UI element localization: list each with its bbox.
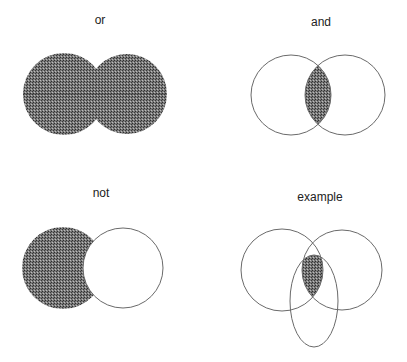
venn-diagram-canvas: or and not example bbox=[0, 0, 407, 362]
and-label: and bbox=[311, 15, 331, 29]
and-diagram: and bbox=[251, 15, 385, 135]
not-label: not bbox=[93, 186, 110, 200]
not-diagram: not bbox=[22, 186, 163, 309]
or-label: or bbox=[95, 13, 106, 27]
example-diagram: example bbox=[241, 190, 382, 347]
or-diagram: or bbox=[23, 13, 167, 135]
example-label: example bbox=[297, 190, 343, 204]
not-circle-a-shaded bbox=[22, 227, 104, 309]
